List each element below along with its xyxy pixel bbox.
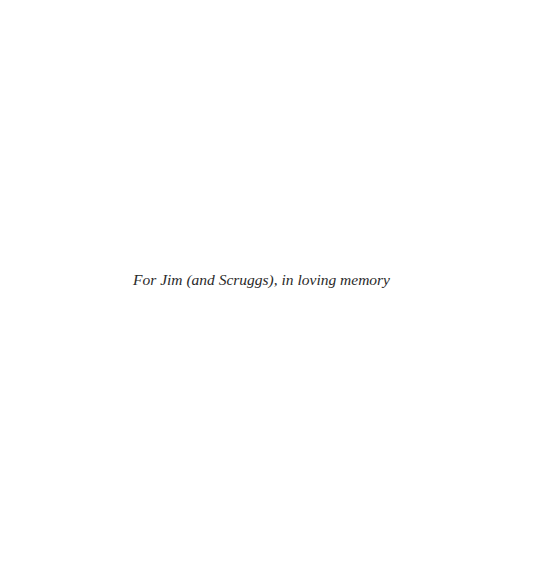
dedication-text: For Jim (and Scruggs), in loving memory <box>133 270 395 290</box>
book-page: For Jim (and Scruggs), in loving memory <box>0 0 542 570</box>
